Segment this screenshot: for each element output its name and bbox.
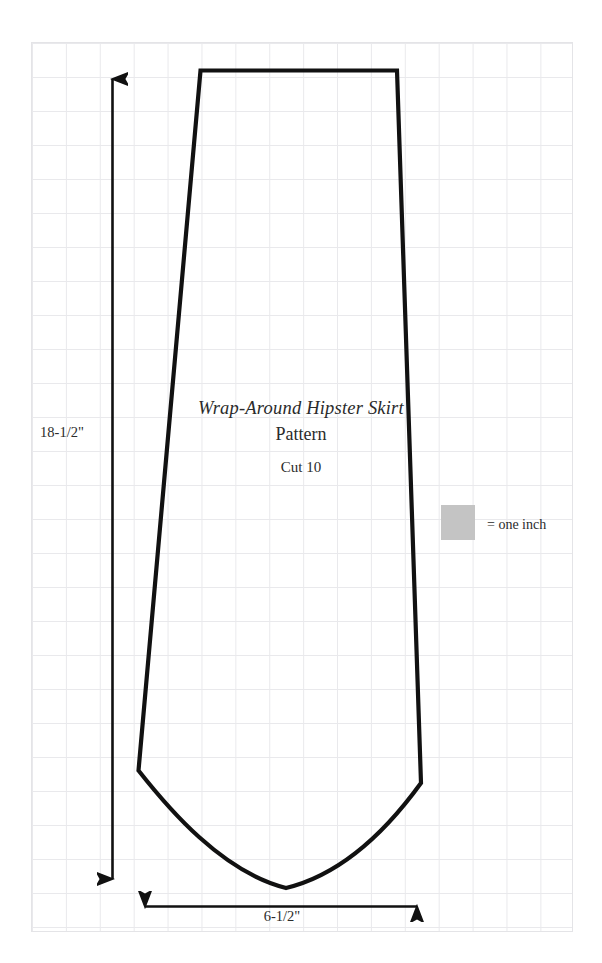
cut-instruction-label: Cut 10 xyxy=(0,459,602,476)
width-measurement-label: 6-1/2" xyxy=(139,908,425,925)
height-measurement-label: 18-1/2" xyxy=(18,424,106,441)
grid-sheet xyxy=(31,42,573,932)
pattern-page: Wrap-Around Hipster Skirt Pattern Cut 10… xyxy=(0,0,602,963)
page-title: Wrap-Around Hipster Skirt xyxy=(0,398,602,419)
legend-swatch-one-inch xyxy=(441,505,475,540)
legend-label: = one inch xyxy=(487,517,546,533)
